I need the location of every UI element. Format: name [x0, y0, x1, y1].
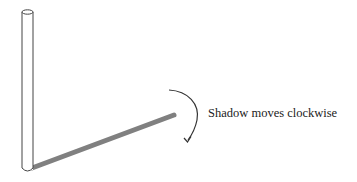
- pole: [22, 10, 33, 171]
- annotation-label: Shadow moves clockwise: [208, 106, 337, 121]
- sundial-diagram: [0, 0, 357, 182]
- shadow: [32, 115, 174, 168]
